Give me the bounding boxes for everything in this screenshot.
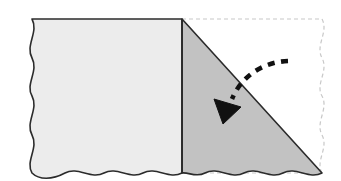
folded-flap-shape: [182, 19, 322, 175]
fold-diagram-svg: [0, 0, 341, 181]
fold-diagram-canvas: Napkin fold diagram Fold direction arrow…: [0, 0, 341, 181]
left-panel-shape: [30, 19, 182, 178]
